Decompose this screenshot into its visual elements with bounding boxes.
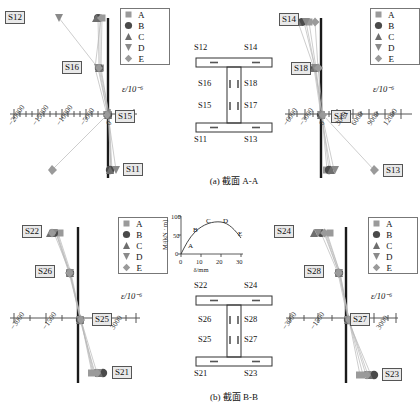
legend-marker-e (371, 53, 386, 64)
inset-xlabel: δ/mm (194, 266, 209, 273)
legend-label-a: A (386, 9, 397, 20)
legend-label-a: A (134, 218, 145, 229)
series-lines-a-right (298, 22, 374, 170)
gauge-label-s22: S22 (22, 225, 42, 238)
legend-marker-a (119, 218, 134, 229)
legend-label-d: D (134, 251, 145, 262)
section-a-label-s17: S17 (244, 100, 257, 110)
legend-a-left: A B C D E (120, 8, 170, 65)
legend-b-right: A B C D E (368, 217, 418, 274)
legend-label-b: B (134, 229, 145, 240)
legend-marker-b (119, 229, 134, 240)
legend-marker-d (371, 42, 386, 53)
series-lines-a-left (52, 18, 116, 170)
panel-a-left: S12 S16 S15 S11 −20000 −15000 −10000 −50… (0, 0, 185, 200)
gauge-label-s18: S18 (291, 62, 311, 75)
legend-marker-e (119, 262, 134, 273)
legend-label-c: C (136, 31, 147, 42)
legend-label-e: E (384, 262, 395, 273)
legend-marker-c (369, 240, 384, 251)
inset-xtick-20: 20 (216, 258, 223, 265)
legend-label-e: E (386, 53, 397, 64)
legend-label-c: C (384, 240, 395, 251)
inset-moment-deflection: 100 50 0 0 10 20 30 A B C D E M/(kN · m)… (157, 210, 262, 272)
inset-ylabel: M/(kN · m) (161, 220, 169, 250)
legend-marker-b (369, 229, 384, 240)
panel-a-right: S14 S18 S17 S13 −6000 −3000 0 3000 6000 … (283, 0, 419, 200)
axis-label-a-right: ε/10⁻⁶ (373, 84, 394, 94)
legend-marker-b (121, 20, 136, 31)
inset-ytick-100: 100 (171, 213, 181, 220)
inset-point-a: A (188, 242, 193, 250)
gauge-label-s24: S24 (274, 225, 294, 238)
gauge-label-s26: S26 (35, 265, 55, 278)
section-a-label-s12: S12 (194, 42, 207, 52)
section-a-label-s18: S18 (244, 78, 257, 88)
legend-label-b: B (384, 229, 395, 240)
axis-label-b-left: ε/10⁻⁶ (121, 291, 142, 301)
legend-marker-a (369, 218, 384, 229)
legend-marker-a (371, 9, 386, 20)
gauge-label-s28: S28 (304, 265, 324, 278)
section-a-label-s15: S15 (198, 100, 211, 110)
legend-marker-a (121, 9, 136, 20)
inset-xtick-10: 10 (196, 258, 203, 265)
legend-marker-d (121, 42, 136, 53)
legend-label-d: D (386, 42, 397, 53)
legend-marker-c (119, 240, 134, 251)
legend-label-d: D (136, 42, 147, 53)
legend-label-c: C (386, 31, 397, 42)
section-a-label-s16: S16 (198, 78, 211, 88)
axis-group-a-left (10, 18, 137, 178)
section-b-label-s22: S22 (194, 280, 207, 290)
axis-label-b-right: ε/10⁻⁶ (371, 291, 392, 301)
gauge-label-s23: S23 (382, 368, 402, 381)
inset-ytick-50: 50 (173, 232, 180, 239)
legend-marker-e (369, 262, 384, 273)
legend-label-a: A (384, 218, 395, 229)
section-b-label-s26: S26 (198, 314, 211, 324)
section-a-label-s11: S11 (194, 134, 207, 144)
legend-marker-c (121, 31, 136, 42)
gauge-label-s15: S15 (115, 110, 135, 123)
section-a-a: S12 S14 S16 S18 S15 S17 S11 S13 (a) 截面 A… (182, 30, 292, 200)
legend-label-b: B (136, 20, 147, 31)
inset-xtick-0: 0 (179, 258, 182, 265)
series-lines-b-left (54, 233, 97, 373)
gauge-label-s27: S27 (350, 313, 370, 326)
legend-label-b: B (386, 20, 397, 31)
inset-ytick-0: 0 (175, 250, 178, 257)
inset-point-b: B (193, 226, 198, 234)
panel-b-right: S24 S28 S27 S23 −3000 −1500 3000 A B C D… (250, 205, 419, 419)
markers-a-right (294, 18, 379, 176)
gauge-label-s13: S13 (383, 164, 403, 177)
inset-xtick-30: 30 (236, 258, 243, 265)
gauge-label-s11: S11 (123, 163, 143, 176)
caption-a: (a) 截面 A-A (174, 174, 294, 187)
inset-point-e: E (238, 230, 242, 238)
legend-label-c: C (134, 240, 145, 251)
legend-marker-d (119, 251, 134, 262)
gauge-label-s16: S16 (62, 61, 82, 74)
inset-point-d: D (223, 217, 228, 225)
section-a-label-s14: S14 (244, 42, 257, 52)
gauge-label-s12: S12 (5, 11, 25, 24)
gauge-label-s14: S14 (279, 13, 299, 26)
section-a-label-s13: S13 (244, 134, 257, 144)
legend-marker-d (369, 251, 384, 262)
inset-plot: 100 50 0 0 10 20 30 A B C D E M/(kN · m)… (157, 210, 262, 272)
section-b-label-s21: S21 (194, 368, 207, 378)
inset-point-c: C (206, 217, 211, 225)
section-b-label-s25: S25 (198, 334, 211, 344)
legend-label-e: E (136, 53, 147, 64)
legend-label-a: A (136, 9, 147, 20)
legend-label-d: D (384, 251, 395, 262)
gauge-label-s21: S21 (112, 366, 132, 379)
legend-marker-c (371, 31, 386, 42)
legend-marker-b (371, 20, 386, 31)
legend-a-right: A B C D E (370, 8, 420, 65)
axis-label-a-left: ε/10⁻⁶ (122, 84, 143, 94)
legend-marker-e (121, 53, 136, 64)
legend-label-e: E (134, 262, 145, 273)
